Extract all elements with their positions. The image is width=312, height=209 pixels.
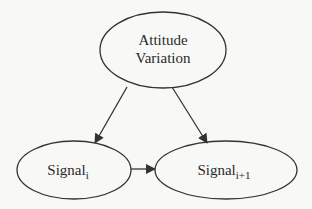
node-label: Signal xyxy=(197,162,235,178)
diagram-canvas: Attitude Variation Signali Signali+1 xyxy=(0,0,312,209)
edge-attitude-to-signal-i1 xyxy=(172,87,207,143)
node-attitude-variation: Attitude Variation xyxy=(100,12,226,88)
node-label-line2: Variation xyxy=(136,50,191,66)
svg-text:Signali: Signali xyxy=(47,162,88,181)
node-signal-i-plus-1: Signali+1 xyxy=(155,141,297,199)
node-label-line1: Attitude xyxy=(138,32,188,48)
svg-text:Signali+1: Signali+1 xyxy=(197,162,250,181)
node-signal-i: Signali xyxy=(17,141,131,199)
edge-attitude-to-signal-i xyxy=(95,87,127,143)
node-subscript: i xyxy=(86,169,89,181)
node-subscript: i+1 xyxy=(236,169,251,181)
node-label: Signal xyxy=(47,162,85,178)
